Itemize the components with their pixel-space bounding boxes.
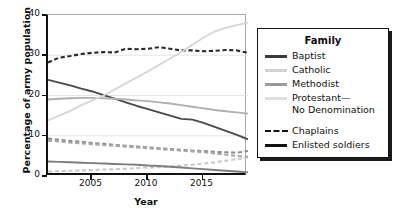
legend-family-entries: BaptistCatholicMethodistProtestant—No De… xyxy=(265,50,381,117)
y-tick-mark xyxy=(42,175,47,177)
legend-item-label: Methodist xyxy=(292,78,339,90)
series-line xyxy=(48,141,248,157)
legend-item-label: Chaplains xyxy=(292,125,339,137)
y-tick-label: 30 xyxy=(6,48,40,58)
legend-color-swatch xyxy=(265,50,287,63)
legend-item-label: Enlisted soldiers xyxy=(292,139,370,151)
x-axis-label: Year xyxy=(46,196,246,207)
legend-solid-line-swatch xyxy=(265,139,287,152)
legend-item-label: Catholic xyxy=(292,64,331,76)
chart-figure: Percentage of army population 010203040 … xyxy=(0,0,399,218)
legend-color-swatch xyxy=(265,78,287,91)
legend-divider-space xyxy=(265,118,381,125)
legend-dashed-line-swatch xyxy=(265,125,287,138)
legend-item[interactable]: Enlisted soldiers xyxy=(265,139,381,152)
legend-item[interactable]: Protestant—No Denomination xyxy=(265,92,381,117)
y-tick-label: 10 xyxy=(6,129,40,139)
legend-color-swatch xyxy=(265,92,287,105)
series-line xyxy=(48,98,248,114)
series-line xyxy=(48,23,248,121)
legend-title: Family xyxy=(265,35,381,46)
y-tick-label: 0 xyxy=(6,169,40,179)
legend-group-entries: ChaplainsEnlisted soldiers xyxy=(265,125,381,152)
legend-item[interactable]: Catholic xyxy=(265,64,381,77)
legend-item[interactable]: Methodist xyxy=(265,78,381,91)
legend-item[interactable]: Chaplains xyxy=(265,125,381,138)
legend-item[interactable]: Baptist xyxy=(265,50,381,63)
series-line xyxy=(48,139,248,153)
legend-item-label: Baptist xyxy=(292,50,325,62)
legend-box: Family BaptistCatholicMethodistProtestan… xyxy=(257,28,389,158)
plot-area xyxy=(46,14,246,175)
legend-color-swatch xyxy=(265,64,287,77)
y-tick-label: 20 xyxy=(6,89,40,99)
y-tick-label: 40 xyxy=(6,8,40,18)
series-lines xyxy=(48,15,248,176)
legend-item-label: Protestant—No Denomination xyxy=(292,92,375,116)
